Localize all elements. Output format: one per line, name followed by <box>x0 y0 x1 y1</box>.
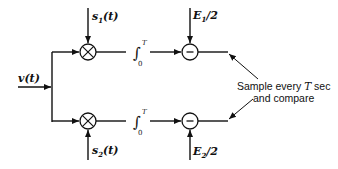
summer-icon <box>182 113 198 129</box>
svg-text:T: T <box>142 108 148 116</box>
input-label: v(t) <box>18 72 40 85</box>
e2-label: E2/2 <box>192 145 218 160</box>
correlation-receiver-diagram: v(t) s1(t) ∫ T 0 E1/2 s2(t) <box>0 0 338 169</box>
annotation-arrow-lower <box>229 99 253 119</box>
integrator-icon: ∫ T 0 <box>133 108 148 137</box>
e1-label: E1/2 <box>192 9 218 24</box>
s1-label: s1(t) <box>92 10 119 25</box>
svg-text:0: 0 <box>138 60 142 68</box>
summer-icon <box>182 44 198 60</box>
s2-label: s2(t) <box>92 144 119 159</box>
multiplier-icon <box>80 113 96 129</box>
annotation-line2: and compare <box>253 92 314 104</box>
upper-branch: s1(t) ∫ T 0 E1/2 <box>52 8 228 68</box>
annotation-line1: Sample every T sec <box>237 80 330 92</box>
annotation-arrow-upper <box>229 54 258 79</box>
input-signal: v(t) <box>18 52 52 122</box>
svg-text:0: 0 <box>138 129 142 137</box>
lower-branch: s2(t) ∫ T 0 E2/2 <box>52 108 228 160</box>
svg-text:T: T <box>142 39 148 47</box>
sample-annotation: Sample every T sec and compare <box>229 54 330 119</box>
multiplier-icon <box>80 44 96 60</box>
integrator-icon: ∫ T 0 <box>133 39 148 68</box>
